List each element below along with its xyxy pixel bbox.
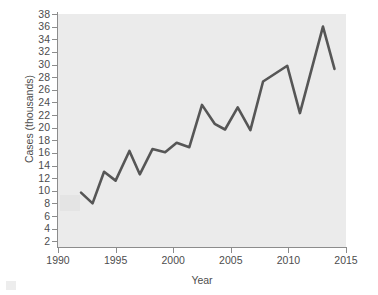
y-tick-mark <box>52 102 57 103</box>
y-tick-mark <box>52 39 57 40</box>
y-tick-mark <box>52 166 57 167</box>
y-tick-mark <box>52 52 57 53</box>
x-tick-label: 2005 <box>209 255 253 266</box>
x-tick-mark <box>173 248 174 253</box>
y-axis-title: Cases (thousands) <box>23 34 35 204</box>
y-tick-label: 4 <box>10 223 50 234</box>
y-tick-mark <box>52 14 57 15</box>
y-tick-mark <box>52 27 57 28</box>
y-tick-mark <box>52 229 57 230</box>
y-tick-mark <box>52 77 57 78</box>
x-tick-mark <box>288 248 289 253</box>
x-tick-mark <box>116 248 117 253</box>
x-tick-label: 2010 <box>266 255 310 266</box>
x-axis-line <box>57 247 347 248</box>
y-tick-mark <box>52 115 57 116</box>
x-axis-title: Year <box>58 274 346 286</box>
y-tick-mark <box>52 153 57 154</box>
watermark-block <box>60 195 80 211</box>
y-axis-line <box>57 12 58 248</box>
y-tick-mark <box>52 140 57 141</box>
y-tick-mark <box>52 178 57 179</box>
corner-artifact <box>6 281 16 290</box>
y-tick-mark <box>52 241 57 242</box>
y-tick-mark <box>52 203 57 204</box>
y-tick-label: 38 <box>10 9 50 20</box>
y-tick-mark <box>52 128 57 129</box>
y-tick-mark <box>52 216 57 217</box>
x-tick-label: 2015 <box>324 255 368 266</box>
y-tick-mark <box>52 90 57 91</box>
y-tick-label: 6 <box>10 211 50 222</box>
x-tick-mark <box>346 248 347 253</box>
line-chart-figure: 2468101214161820222426283032343638 19901… <box>0 0 378 295</box>
y-tick-label: 36 <box>10 21 50 32</box>
y-tick-mark <box>52 65 57 66</box>
y-tick-mark <box>52 191 57 192</box>
x-tick-label: 1990 <box>36 255 80 266</box>
x-tick-mark <box>58 248 59 253</box>
x-tick-label: 1995 <box>94 255 138 266</box>
x-tick-label: 2000 <box>151 255 195 266</box>
plot-area-panel <box>58 14 346 247</box>
x-tick-mark <box>231 248 232 253</box>
y-tick-label: 2 <box>10 236 50 247</box>
